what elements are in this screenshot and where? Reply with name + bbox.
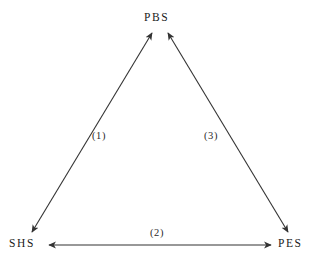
- edge-pes-pbs: [168, 33, 288, 232]
- edge-label-1: (1): [92, 131, 106, 142]
- diagram-canvas: [0, 0, 322, 263]
- node-label-shs: SHS: [9, 238, 35, 250]
- triangle-diagram: PBS SHS PES (1) (2) (3): [0, 0, 322, 263]
- edge-label-2: (2): [150, 228, 164, 239]
- edge-label-3: (3): [204, 131, 218, 142]
- node-label-pes: PES: [278, 238, 303, 250]
- node-label-pbs: PBS: [144, 12, 169, 24]
